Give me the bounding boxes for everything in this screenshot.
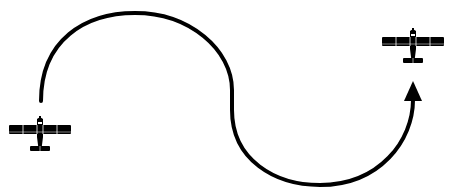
background: [0, 0, 458, 195]
flight-path-diagram: [0, 0, 458, 195]
